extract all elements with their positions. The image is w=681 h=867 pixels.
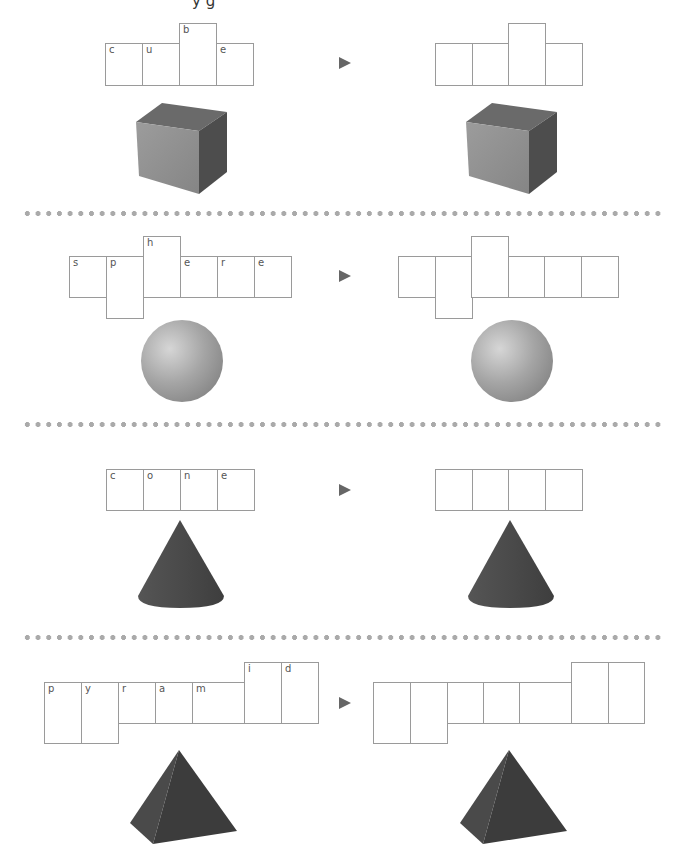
letter: y: [85, 683, 91, 695]
letter: d: [285, 663, 291, 675]
pyramid-icon: [130, 748, 240, 844]
empty-box[interactable]: [519, 682, 572, 724]
empty-box[interactable]: [545, 43, 583, 86]
letter-box: c: [105, 43, 143, 86]
cone-icon: [136, 518, 228, 608]
empty-box[interactable]: [447, 682, 485, 724]
letter-box: a: [155, 682, 193, 724]
letter: h: [147, 237, 153, 249]
empty-box[interactable]: [373, 682, 411, 744]
dotted-divider: [22, 422, 664, 427]
letter-box: d: [281, 662, 319, 724]
letter: e: [220, 44, 226, 56]
letter: e: [221, 470, 227, 482]
empty-box[interactable]: [471, 236, 509, 298]
letter-box: r: [118, 682, 156, 724]
letter-box: e: [216, 43, 254, 86]
letter-box: u: [142, 43, 180, 86]
letter: i: [248, 663, 251, 675]
pyramid-icon: [460, 748, 570, 844]
empty-box[interactable]: [472, 469, 510, 511]
letter-box: r: [217, 256, 255, 298]
arrow-icon: [339, 697, 351, 709]
letter-box: e: [254, 256, 292, 298]
letter: u: [146, 44, 152, 56]
empty-box[interactable]: [410, 682, 448, 744]
empty-box[interactable]: [435, 469, 473, 511]
letter-box: e: [180, 256, 218, 298]
letter: b: [183, 24, 189, 36]
cube-icon: [130, 98, 230, 194]
letter: e: [184, 257, 190, 269]
arrow-icon: [339, 270, 351, 282]
empty-box[interactable]: [435, 256, 473, 319]
letter-box: p: [44, 682, 82, 744]
letter: a: [159, 683, 165, 695]
letter: m: [196, 683, 206, 695]
letter-box: h: [143, 236, 181, 298]
empty-box[interactable]: [483, 682, 520, 724]
empty-box[interactable]: [435, 43, 473, 86]
empty-box[interactable]: [508, 469, 546, 511]
cone-icon: [466, 518, 558, 608]
arrow-icon: [339, 57, 351, 69]
letter-box: b: [179, 23, 217, 86]
letter-box: n: [180, 469, 218, 511]
arrow-icon: [339, 484, 351, 496]
empty-box[interactable]: [472, 43, 510, 86]
letter: c: [109, 44, 115, 56]
dotted-divider: [22, 635, 664, 640]
letter: c: [110, 470, 116, 482]
letter-box: y: [81, 682, 119, 744]
letter-box: o: [143, 469, 181, 511]
letter: o: [147, 470, 153, 482]
letter: p: [48, 683, 54, 695]
letter-box: i: [244, 662, 282, 724]
letter: p: [110, 257, 116, 269]
empty-box[interactable]: [581, 256, 619, 298]
letter-box: m: [192, 682, 245, 724]
empty-box[interactable]: [508, 256, 546, 298]
letter-box: p: [106, 256, 144, 319]
empty-box[interactable]: [545, 469, 583, 511]
dotted-divider: [22, 211, 664, 216]
letter: e: [258, 257, 264, 269]
letter-box: c: [106, 469, 144, 511]
empty-box[interactable]: [571, 662, 609, 724]
letter-box: e: [217, 469, 255, 511]
empty-box[interactable]: [608, 662, 645, 724]
empty-box[interactable]: [544, 256, 582, 298]
sphere-icon: [139, 318, 225, 404]
letter: r: [122, 683, 126, 695]
empty-box[interactable]: [508, 23, 546, 86]
cube-icon: [460, 98, 560, 194]
empty-box[interactable]: [398, 256, 436, 298]
letter: s: [73, 257, 78, 269]
sphere-icon: [469, 318, 555, 404]
letter-box: s: [69, 256, 107, 298]
letter: n: [184, 470, 190, 482]
title-fragment: y g: [192, 0, 215, 10]
letter: r: [221, 257, 225, 269]
